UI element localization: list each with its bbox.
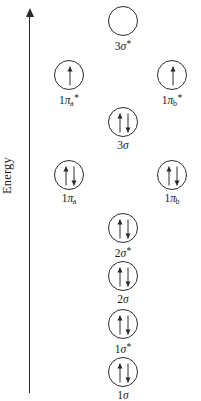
spin-up-arrow-icon bbox=[117, 316, 122, 335]
spin-up-arrow-icon bbox=[117, 268, 122, 287]
electron-spins-1pi-b bbox=[158, 161, 188, 191]
spin-up-arrow-icon bbox=[67, 67, 72, 86]
orbital-circle-1sigma-star bbox=[108, 309, 138, 339]
spin-down-arrow-icon bbox=[125, 220, 130, 239]
orbital-label-superscript: * bbox=[177, 93, 182, 103]
orbital-3sigma: 3σ bbox=[100, 107, 146, 152]
orbital-circle-1sigma bbox=[108, 357, 138, 387]
electron-spins-2sigma bbox=[109, 262, 139, 292]
orbital-1pi-b: 1πb bbox=[149, 160, 195, 208]
spin-up-arrow-icon bbox=[166, 167, 171, 186]
spin-up-arrow-icon bbox=[63, 167, 68, 186]
spin-up-arrow-icon bbox=[117, 364, 122, 383]
orbital-label-superscript: * bbox=[74, 93, 79, 103]
orbital-label-symbol: σ bbox=[123, 139, 129, 151]
spin-down-arrow-icon bbox=[125, 114, 130, 133]
spin-down-arrow-icon bbox=[125, 316, 130, 335]
orbital-label-3sigma: 3σ bbox=[100, 139, 146, 152]
orbital-label-1sigma: 1σ bbox=[100, 389, 146, 401]
orbital-label-symbol: σ bbox=[123, 389, 129, 401]
orbital-label-symbol: σ bbox=[123, 293, 129, 305]
orbital-1sigma-star: 1σ* bbox=[100, 309, 146, 356]
orbital-label-symbol: σ bbox=[120, 343, 126, 355]
spin-up-arrow-icon bbox=[117, 114, 122, 133]
orbital-circle-1pi-b bbox=[157, 160, 187, 190]
orbital-circle-3sigma bbox=[108, 107, 138, 137]
energy-axis bbox=[28, 8, 31, 393]
electron-spins-1sigma-star bbox=[109, 310, 139, 340]
orbital-label-1pi-a: 1πa bbox=[46, 192, 92, 208]
orbital-label-superscript: * bbox=[127, 39, 132, 49]
orbital-circle-1pi-a-star bbox=[54, 60, 84, 90]
orbital-2sigma: 2σ bbox=[100, 261, 146, 306]
electron-spins-1pi-b-star bbox=[158, 61, 188, 91]
orbital-label-subscript: a bbox=[73, 197, 77, 206]
orbital-label-2sigma: 2σ bbox=[100, 293, 146, 306]
orbital-circle-1pi-a bbox=[54, 160, 84, 190]
orbital-label-superscript: * bbox=[127, 246, 132, 256]
orbital-3sigma-star: 3σ* bbox=[100, 6, 146, 53]
orbital-1sigma: 1σ bbox=[100, 357, 146, 401]
orbital-1pi-a-star: 1πa* bbox=[46, 60, 92, 110]
orbital-circle-2sigma-star bbox=[108, 213, 138, 243]
electron-spins-1pi-a bbox=[55, 161, 85, 191]
energy-axis-line bbox=[29, 14, 30, 393]
orbital-label-subscript: b bbox=[176, 197, 180, 206]
spin-up-arrow-icon bbox=[170, 67, 175, 86]
spin-down-arrow-icon bbox=[174, 167, 179, 186]
orbital-label-1pi-a-star: 1πa* bbox=[46, 92, 92, 110]
electron-spins-2sigma-star bbox=[109, 214, 139, 244]
orbital-circle-1pi-b-star bbox=[157, 60, 187, 90]
electron-spins-1pi-a-star bbox=[55, 61, 85, 91]
spin-up-arrow-icon bbox=[117, 220, 122, 239]
orbital-circle-3sigma-star bbox=[108, 6, 138, 36]
orbital-circle-2sigma bbox=[108, 261, 138, 291]
orbital-label-1sigma-star: 1σ* bbox=[100, 341, 146, 356]
orbital-label-symbol: σ bbox=[120, 247, 126, 259]
orbital-1pi-a: 1πa bbox=[46, 160, 92, 208]
energy-axis-label: Energy bbox=[0, 146, 15, 206]
orbital-label-1pi-b: 1πb bbox=[149, 192, 195, 208]
orbital-label-1pi-b-star: 1πb* bbox=[149, 92, 195, 110]
electron-spins-1sigma bbox=[109, 358, 139, 388]
spin-down-arrow-icon bbox=[125, 268, 130, 287]
electron-spins-3sigma bbox=[109, 108, 139, 138]
orbital-label-symbol: σ bbox=[120, 40, 126, 52]
spin-down-arrow-icon bbox=[71, 167, 76, 186]
orbital-1pi-b-star: 1πb* bbox=[149, 60, 195, 110]
orbital-label-2sigma-star: 2σ* bbox=[100, 245, 146, 260]
orbital-2sigma-star: 2σ* bbox=[100, 213, 146, 260]
orbital-label-3sigma-star: 3σ* bbox=[100, 38, 146, 53]
spin-down-arrow-icon bbox=[125, 364, 130, 383]
mo-energy-diagram: Energy 3σ*1πa*1πb*3σ1πa1πb2σ*2σ1σ*1σ bbox=[0, 0, 201, 401]
orbital-label-superscript: * bbox=[127, 342, 132, 352]
